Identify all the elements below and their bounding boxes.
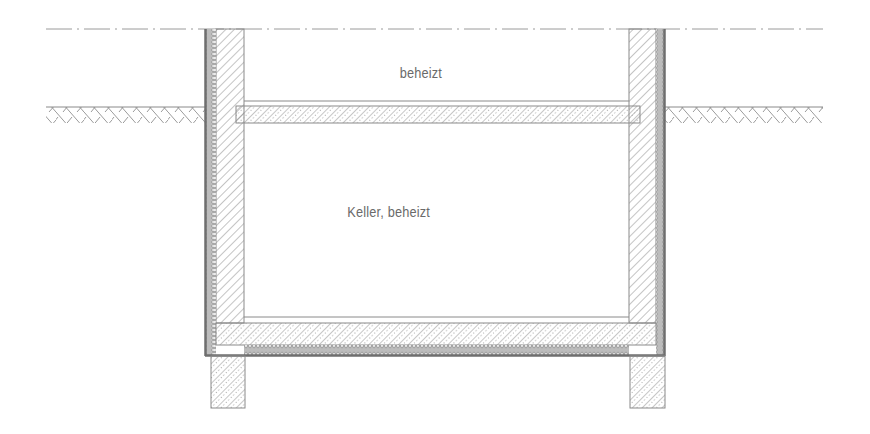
basement-floor-slab [216,317,656,345]
left-perimeter-insulation [205,29,216,356]
right-perimeter-insulation [656,29,665,356]
upper-room-label: beheizt [400,64,442,81]
basement-label: Keller, beheizt [347,203,430,220]
right-wall [629,29,656,323]
ground-surface-right [665,107,823,123]
under-slab-insulation [205,345,665,356]
ground-surface-left [46,107,205,123]
left-foundation [211,356,245,408]
ground-floor-slab [236,101,640,123]
left-wall [216,29,244,323]
right-foundation [630,356,665,408]
